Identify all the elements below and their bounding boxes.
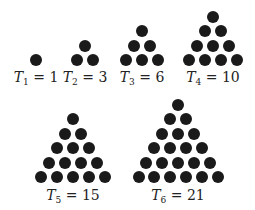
dot-icon xyxy=(164,171,176,183)
label-symbol: T xyxy=(120,69,129,85)
dot-icon xyxy=(204,157,216,169)
label-equals: = xyxy=(61,187,82,203)
label-value: 6 xyxy=(155,69,164,85)
dot-icon xyxy=(83,171,95,183)
dot-icon xyxy=(140,157,152,169)
dot-icon xyxy=(67,142,79,154)
dot-icon xyxy=(156,128,168,140)
dot-icon xyxy=(79,40,91,52)
triangle-label-4: T4 = 10 xyxy=(186,70,240,87)
dot-icon xyxy=(191,40,203,52)
label-value: 3 xyxy=(98,69,107,85)
dot-icon xyxy=(180,171,192,183)
dot-icon xyxy=(188,128,200,140)
dot-icon xyxy=(99,171,111,183)
label-equals: = xyxy=(135,69,156,85)
dot-icon xyxy=(51,171,63,183)
dot-icon xyxy=(136,54,148,66)
label-equals: = xyxy=(201,69,222,85)
dot-icon xyxy=(83,142,95,154)
dot-icon xyxy=(120,54,132,66)
dot-icon xyxy=(59,157,71,169)
dot-icon xyxy=(199,54,211,66)
dot-icon xyxy=(207,40,219,52)
dot-icon xyxy=(215,54,227,66)
dot-icon xyxy=(59,128,71,140)
triangle-label-6: T6 = 21 xyxy=(151,188,205,205)
dot-icon xyxy=(144,40,156,52)
dot-icon xyxy=(156,157,168,169)
dot-icon xyxy=(51,142,63,154)
dot-icon xyxy=(136,25,148,37)
dot-icon xyxy=(67,113,79,125)
label-value: 15 xyxy=(82,187,100,203)
dot-icon xyxy=(148,171,160,183)
label-value: 21 xyxy=(187,187,205,203)
label-symbol: T xyxy=(46,187,55,203)
dot-icon xyxy=(215,25,227,37)
triangle-label-2: T2 = 3 xyxy=(63,70,108,87)
dot-icon xyxy=(196,142,208,154)
triangle-label-3: T3 = 6 xyxy=(120,70,165,87)
dot-icon xyxy=(172,99,184,111)
dot-icon xyxy=(172,128,184,140)
dot-icon xyxy=(180,113,192,125)
label-equals: = xyxy=(166,187,187,203)
dot-icon xyxy=(199,25,211,37)
label-symbol: T xyxy=(151,187,160,203)
dot-icon xyxy=(133,171,145,183)
label-symbol: T xyxy=(14,69,23,85)
label-value: 10 xyxy=(222,69,240,85)
dot-icon xyxy=(207,11,219,23)
dot-icon xyxy=(67,171,79,183)
dot-icon xyxy=(164,113,176,125)
dot-icon xyxy=(180,142,192,154)
dot-icon xyxy=(223,40,235,52)
dot-icon xyxy=(128,40,140,52)
dot-icon xyxy=(148,142,160,154)
label-symbol: T xyxy=(63,69,72,85)
dot-icon xyxy=(75,157,87,169)
dot-icon xyxy=(196,171,208,183)
dot-icon xyxy=(188,157,200,169)
triangle-label-1: T1 = 1 xyxy=(14,70,59,87)
dot-icon xyxy=(87,54,99,66)
dot-icon xyxy=(30,54,42,66)
dot-icon xyxy=(152,54,164,66)
dot-icon xyxy=(183,54,195,66)
dot-icon xyxy=(43,157,55,169)
label-equals: = xyxy=(78,69,99,85)
dot-icon xyxy=(231,54,243,66)
triangular-numbers-figure: T1 = 1T2 = 3T3 = 6T4 = 10T5 = 15T6 = 21 xyxy=(0,0,255,210)
dot-icon xyxy=(71,54,83,66)
label-symbol: T xyxy=(186,69,195,85)
dot-icon xyxy=(35,171,47,183)
triangle-label-5: T5 = 15 xyxy=(46,188,100,205)
dot-icon xyxy=(91,157,103,169)
label-equals: = xyxy=(29,69,50,85)
dot-icon xyxy=(212,171,224,183)
dot-icon xyxy=(164,142,176,154)
dot-icon xyxy=(172,157,184,169)
label-value: 1 xyxy=(49,69,58,85)
dot-icon xyxy=(75,128,87,140)
